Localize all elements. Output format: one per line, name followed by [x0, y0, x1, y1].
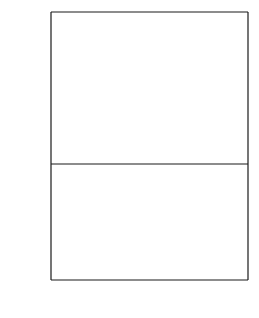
figure [0, 0, 259, 318]
plot-frame [51, 12, 248, 280]
